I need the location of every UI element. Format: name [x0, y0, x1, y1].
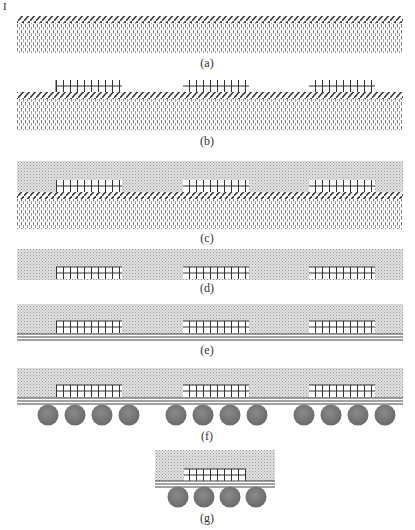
die-1 [56, 180, 122, 192]
panel-label-b: (b) [200, 134, 214, 148]
panel-label-a: (a) [200, 56, 213, 70]
panel-b: (b) [17, 80, 403, 148]
page-marker: I [3, 0, 7, 12]
die-2 [183, 385, 249, 397]
die-2 [183, 80, 249, 92]
die-1 [56, 267, 122, 279]
panel-a: (a) [17, 16, 403, 70]
die-3 [309, 80, 375, 92]
carrier-wafer [17, 199, 403, 229]
adhesive-tape [17, 92, 403, 99]
carrier-wafer [17, 23, 403, 53]
die-1 [56, 80, 122, 92]
die-2 [183, 321, 249, 333]
die-3 [309, 180, 375, 192]
redistribution-layer [155, 481, 275, 487]
die-3 [309, 267, 375, 279]
panel-f: (f) [17, 368, 403, 443]
adhesive-tape [17, 192, 403, 199]
panel-label-e: (e) [200, 343, 213, 357]
redistribution-layer [17, 398, 403, 404]
die-1 [56, 385, 122, 397]
panel-label-c: (c) [200, 231, 213, 245]
panel-label-g: (g) [200, 511, 214, 525]
die-3 [309, 321, 375, 333]
die-2 [183, 180, 249, 192]
redistribution-layer [17, 334, 403, 340]
solder-balls [38, 405, 396, 426]
die-1 [56, 321, 122, 333]
panel-c: (c) [17, 161, 403, 245]
panel-label-f: (f) [201, 429, 213, 443]
panel-d: (d) [17, 249, 403, 295]
die-2 [183, 267, 249, 279]
adhesive-tape [17, 16, 403, 23]
panel-g: (g) [155, 450, 275, 525]
solder-balls [168, 487, 267, 508]
panel-label-d: (d) [200, 281, 214, 295]
carrier-wafer [17, 99, 403, 130]
fowlp-process-diagram: I (a) (b) [0, 0, 415, 530]
die [184, 469, 246, 481]
panel-e: (e) [17, 304, 403, 357]
die-3 [309, 385, 375, 397]
